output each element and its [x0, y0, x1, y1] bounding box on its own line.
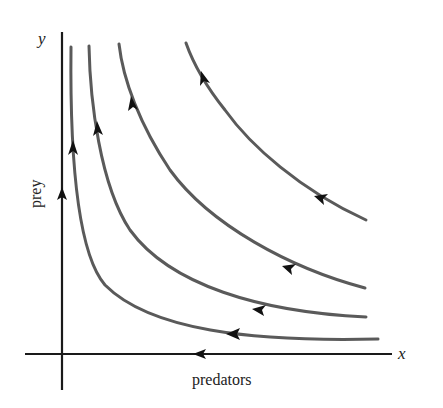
trajectory-4 — [186, 43, 366, 220]
y-axis-label: prey — [27, 180, 45, 208]
phase-portrait: y x predators prey — [0, 0, 443, 408]
y-axis-symbol: y — [36, 29, 46, 48]
trajectory-3 — [119, 44, 365, 288]
trajectory-1 — [71, 47, 378, 339]
x-axis-symbol: x — [397, 344, 406, 363]
trajectory-2-arrow-lower-icon — [252, 305, 266, 316]
trajectory-3-arrow-lower-icon — [282, 264, 296, 275]
x-axis-label: predators — [192, 371, 252, 389]
